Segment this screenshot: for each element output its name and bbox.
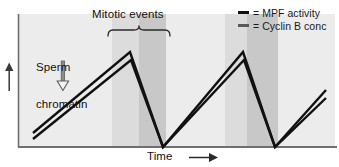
mitotic-band-light-2 <box>225 14 247 147</box>
sperm-chromatin-label-line1: Sperm <box>36 61 87 73</box>
mitotic-band-dark-1 <box>139 14 166 147</box>
chart-legend: = MPF activity = Cyclin B conc <box>238 6 326 32</box>
time-arrow-icon <box>189 153 218 162</box>
sperm-chromatin-label-line2: chromatin <box>36 98 87 110</box>
legend-equals-mpf-activity: = <box>253 7 259 19</box>
legend-label-mpf-activity: MPF activity <box>262 7 320 19</box>
legend-item-mpf-activity: = MPF activity <box>238 6 326 19</box>
mitotic-band-light-1 <box>112 14 139 147</box>
sperm-chromatin-label: Sperm chromatin <box>36 36 87 123</box>
mitotic-events-label: Mitotic events <box>92 8 164 20</box>
legend-equals-cyclin-b-conc: = <box>253 20 259 32</box>
x-axis-label: Time <box>147 150 173 162</box>
legend-item-cyclin-b-conc: = Cyclin B conc <box>238 19 326 32</box>
legend-label-cyclin-b-conc: Cyclin B conc <box>262 20 326 32</box>
y-axis-up-arrow-icon <box>5 63 13 92</box>
legend-swatch-cyclin-b-conc <box>238 24 249 27</box>
legend-swatch-mpf-activity <box>238 11 249 14</box>
